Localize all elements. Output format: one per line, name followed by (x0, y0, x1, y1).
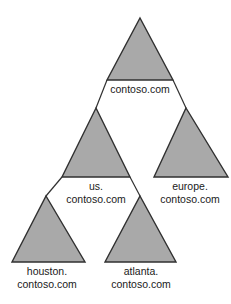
label-line: contoso.com (160, 193, 220, 205)
label-houston: houston.contoso.com (17, 265, 77, 290)
label-line: contoso.com (17, 278, 77, 290)
domain-tree-canvas: contoso.com us.contoso.com europe.contos… (0, 0, 231, 304)
label-line: contoso.com (111, 278, 171, 290)
label-line: houston. (27, 265, 67, 277)
connector-us-to-houston (46, 177, 62, 196)
label-line: contoso.com (110, 83, 170, 95)
label-europe: europe.contoso.com (160, 180, 220, 205)
connector-us-to-atlanta (130, 177, 140, 196)
triangle-group (12, 18, 228, 262)
connector-root-to-europe (173, 80, 186, 108)
label-root: contoso.com (110, 83, 170, 95)
triangle-houston[interactable] (12, 196, 85, 262)
triangle-root[interactable] (107, 18, 173, 80)
connector-group (46, 80, 186, 196)
label-line: us. (89, 180, 103, 192)
triangle-us[interactable] (62, 108, 130, 177)
label-line: contoso.com (66, 193, 126, 205)
connector-root-to-us (96, 80, 107, 108)
triangle-europe[interactable] (154, 108, 228, 177)
label-line: europe. (172, 180, 208, 192)
label-atlanta: atlanta.contoso.com (111, 265, 171, 290)
domain-tree-diagram: contoso.com us.contoso.com europe.contos… (0, 0, 231, 304)
label-us: us.contoso.com (66, 180, 126, 205)
triangle-atlanta[interactable] (105, 196, 176, 262)
label-line: atlanta. (124, 265, 158, 277)
